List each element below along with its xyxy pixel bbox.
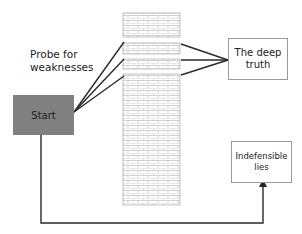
probe-line-3: [74, 76, 124, 112]
deep-truth-label: The deep truth: [233, 47, 283, 71]
wall-segment-3: [123, 59, 180, 69]
brick-wall: [123, 13, 180, 205]
start-node-label: Start: [31, 110, 55, 121]
indefensible-lies-label: Indefensible lies: [234, 151, 289, 173]
truth-lines: [181, 44, 228, 75]
truth-line-3: [181, 60, 228, 75]
wall-segment-top: [123, 13, 180, 37]
deep-truth-node: The deep truth: [228, 38, 288, 80]
indefensible-lies-node: Indefensible lies: [231, 141, 292, 183]
probe-for-weaknesses-label: Probe for weaknesses: [30, 48, 110, 74]
wall-segment-2: [123, 43, 180, 54]
diagram-canvas: Probe for weaknesses Start The deep trut…: [0, 0, 302, 234]
wall-segment-bottom: [123, 74, 180, 205]
truth-line-1: [181, 44, 228, 60]
start-node: Start: [13, 95, 74, 135]
